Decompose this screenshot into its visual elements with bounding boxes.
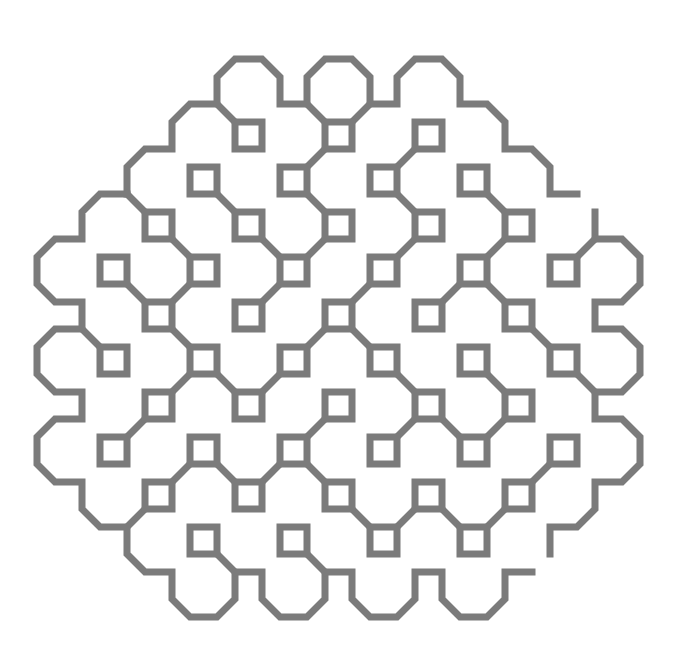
curve-figure <box>0 0 680 664</box>
curve-drawing <box>0 0 680 664</box>
